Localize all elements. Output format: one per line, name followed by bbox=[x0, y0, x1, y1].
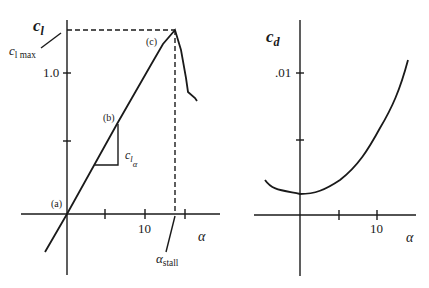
slope-label: clα bbox=[125, 149, 137, 168]
clmax-label: cl max bbox=[9, 44, 36, 61]
cd-ytick-label: .01 bbox=[275, 66, 291, 79]
cd-alpha-axis-label: α bbox=[406, 231, 413, 245]
stall-leader bbox=[166, 216, 175, 252]
point-b-label: (b) bbox=[103, 113, 115, 123]
alpha-stall-label: αstall bbox=[156, 252, 178, 269]
diagram-canvas bbox=[0, 0, 429, 288]
alpha-xtick-label: 10 bbox=[138, 222, 151, 235]
cd-axis-title: cd bbox=[266, 28, 280, 49]
point-c-label: (c) bbox=[146, 37, 157, 47]
alpha-axis-label: α bbox=[198, 230, 205, 244]
clmax-leader bbox=[41, 33, 61, 48]
cl-axis-title: cl bbox=[33, 17, 44, 38]
cl-ytick-label: 1.0 bbox=[43, 66, 59, 79]
drag-curve bbox=[265, 60, 408, 194]
cd-xtick-label: 10 bbox=[370, 222, 383, 235]
point-a-label: (a) bbox=[51, 199, 62, 209]
